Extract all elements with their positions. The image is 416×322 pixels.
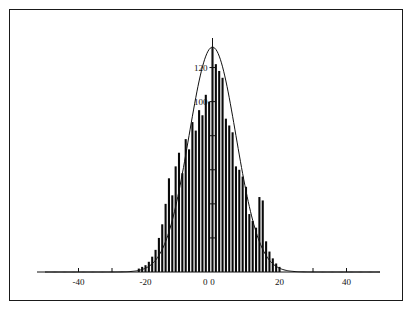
histogram-bar [238,170,240,272]
x-tick-label: 40 [342,277,352,287]
histogram-bar [181,173,183,272]
histogram-chart: -40-20020400100120 [0,0,416,322]
x-tick-label: -40 [73,277,85,287]
histogram-bar [252,221,254,272]
y-tick-label: 0 [203,277,208,287]
histogram-bar [171,195,173,272]
histogram-bar [245,187,247,272]
histogram-bar [232,132,234,272]
histogram-bar [201,115,203,272]
histogram-bar [175,166,177,272]
histogram-bar [188,149,190,272]
x-tick-label: 0 [210,277,215,287]
histogram-bar [248,214,250,272]
y-tick-label: 100 [194,97,208,107]
x-tick-label: 20 [275,277,285,287]
histogram-bar [225,119,227,272]
y-tick-label: 120 [194,63,208,73]
histogram-bar [218,71,220,272]
histogram-bars [138,47,281,272]
histogram-bar [242,177,244,272]
histogram-bar [235,166,237,272]
histogram-bar [215,64,217,272]
histogram-bar [275,263,277,272]
histogram-bar [205,95,207,272]
x-tick-label: -20 [140,277,152,287]
histogram-bar [198,110,200,272]
histogram-bar [222,78,224,272]
histogram-bar [168,178,170,272]
histogram-bar [272,258,274,272]
histogram-bar [208,102,210,272]
histogram-bar [165,204,167,272]
histogram-bar [195,131,197,272]
histogram-bar [258,197,260,272]
histogram-bar [262,200,264,272]
histogram-bar [228,125,230,272]
histogram-bar [191,122,193,272]
histogram-bar [178,153,180,272]
figure-container: -40-20020400100120 [0,0,416,322]
